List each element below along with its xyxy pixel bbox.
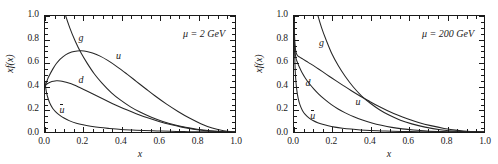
xtick-major-4-top xyxy=(199,16,200,21)
curve-label-ubar: u xyxy=(310,111,315,121)
yaxis-label-right: xf(x) xyxy=(253,34,264,94)
ytick-minor-3-1 xyxy=(294,57,297,58)
xtick-major-2-top xyxy=(371,16,372,21)
curve-label-g: g xyxy=(79,33,84,43)
yaxis-label-f-left: f(x) xyxy=(4,54,15,68)
ytick-major-4-right xyxy=(230,40,235,41)
xtick-label-2: 0.4 xyxy=(353,136,387,146)
ytick-major-2 xyxy=(45,87,50,88)
ytick-minor-0-3 xyxy=(45,116,48,117)
ytick-minor-0-1-right xyxy=(232,128,235,129)
xtick-label-4: 0.8 xyxy=(181,136,215,146)
panel-mu-2gev: μ = 2 GeV gudu 0.00.20.40.60.81.0 0.00.2… xyxy=(0,0,249,164)
ytick-minor-0-3-right xyxy=(232,116,235,117)
ytick-minor-2-1 xyxy=(45,81,48,82)
yaxis-label-x-right: x xyxy=(253,68,264,72)
ytick-minor-1-3 xyxy=(294,93,297,94)
ytick-minor-1-2-right xyxy=(232,99,235,100)
xtick-minor-0-3 xyxy=(323,129,324,132)
ytick-major-3 xyxy=(45,63,50,64)
ytick-minor-2-2-right xyxy=(481,75,484,76)
xtick-label-0: 0.0 xyxy=(27,136,61,146)
ytick-minor-2-1 xyxy=(294,81,297,82)
ytick-minor-3-3 xyxy=(45,46,48,47)
ytick-minor-1-3-right xyxy=(481,93,484,94)
ytick-label-2: 0.4 xyxy=(13,80,39,90)
ytick-minor-2-3 xyxy=(294,69,297,70)
ytick-major-3 xyxy=(294,63,299,64)
ytick-minor-1-2-right xyxy=(481,99,484,100)
curve-label-ubar: u xyxy=(59,105,64,115)
curve-label-g: g xyxy=(319,38,324,48)
ytick-major-4 xyxy=(45,40,50,41)
ytick-minor-3-1 xyxy=(45,57,48,58)
xtick-minor-4-3-top xyxy=(227,16,228,19)
curve-label-d: d xyxy=(306,78,311,88)
xtick-minor-3-1 xyxy=(170,129,171,132)
xtick-minor-4-2 xyxy=(218,129,219,132)
xtick-minor-4-3 xyxy=(476,129,477,132)
xtick-minor-3-2-top xyxy=(428,16,429,19)
overbar-ubar: u xyxy=(59,105,64,115)
ytick-minor-0-2 xyxy=(294,122,297,123)
ytick-minor-4-2 xyxy=(294,28,297,29)
xtick-minor-1-3-top xyxy=(361,16,362,19)
ytick-minor-2-2 xyxy=(45,75,48,76)
xtick-major-1-top xyxy=(83,16,84,21)
ytick-label-3: 0.6 xyxy=(262,56,288,66)
ytick-minor-4-3-right xyxy=(232,22,235,23)
ytick-label-1: 0.2 xyxy=(262,103,288,113)
ytick-label-5: 1.0 xyxy=(262,9,288,19)
curve-ubar xyxy=(45,82,235,132)
ytick-label-1: 0.2 xyxy=(13,103,39,113)
xtick-minor-2-3 xyxy=(151,129,152,132)
yaxis-label-f-right: f(x) xyxy=(253,54,264,68)
ytick-minor-2-3-right xyxy=(232,69,235,70)
xtick-minor-2-2-top xyxy=(141,16,142,19)
yaxis-label-left: xf(x) xyxy=(4,34,15,94)
xtick-minor-0-3 xyxy=(74,129,75,132)
ytick-minor-3-1-right xyxy=(481,57,484,58)
xtick-minor-3-3 xyxy=(189,129,190,132)
xtick-minor-0-1-top xyxy=(304,16,305,19)
xaxis-label-right: x xyxy=(293,148,485,159)
xtick-major-3 xyxy=(409,127,410,132)
xtick-minor-0-2 xyxy=(313,129,314,132)
xtick-minor-4-2-top xyxy=(218,16,219,19)
ytick-major-2 xyxy=(294,87,299,88)
ytick-minor-2-1-right xyxy=(232,81,235,82)
xtick-minor-2-2 xyxy=(141,129,142,132)
ytick-minor-4-3 xyxy=(294,22,297,23)
xtick-minor-2-1 xyxy=(380,129,381,132)
curve-d xyxy=(45,81,235,132)
ytick-minor-3-2 xyxy=(45,51,48,52)
xtick-minor-1-1-top xyxy=(93,16,94,19)
ytick-major-4-right xyxy=(479,40,484,41)
xtick-major-1-top xyxy=(332,16,333,21)
ytick-major-3-right xyxy=(479,63,484,64)
ytick-minor-0-2 xyxy=(45,122,48,123)
plot-frame-left: μ = 2 GeV gudu xyxy=(44,15,236,133)
xtick-minor-0-1 xyxy=(55,129,56,132)
xtick-minor-4-3-top xyxy=(476,16,477,19)
ytick-minor-3-3-right xyxy=(481,46,484,47)
ytick-minor-2-1-right xyxy=(481,81,484,82)
curve-label-d: d xyxy=(79,75,84,85)
xtick-label-0: 0.0 xyxy=(276,136,310,146)
xtick-major-2 xyxy=(122,127,123,132)
xtick-minor-0-3-top xyxy=(74,16,75,19)
plot-frame-right: μ = 200 GeV gduu xyxy=(293,15,485,133)
ytick-major-5 xyxy=(294,16,299,17)
ytick-minor-0-3 xyxy=(294,116,297,117)
xtick-minor-3-1-top xyxy=(170,16,171,19)
xtick-minor-3-3-top xyxy=(438,16,439,19)
xtick-minor-3-2 xyxy=(428,129,429,132)
ytick-label-2: 0.4 xyxy=(262,80,288,90)
xtick-minor-1-1-top xyxy=(342,16,343,19)
xtick-major-1 xyxy=(332,127,333,132)
xtick-minor-3-1 xyxy=(419,129,420,132)
ytick-major-1 xyxy=(294,110,299,111)
ytick-minor-1-3 xyxy=(45,93,48,94)
xtick-label-5: 1.0 xyxy=(219,136,253,146)
ytick-major-2-right xyxy=(479,87,484,88)
